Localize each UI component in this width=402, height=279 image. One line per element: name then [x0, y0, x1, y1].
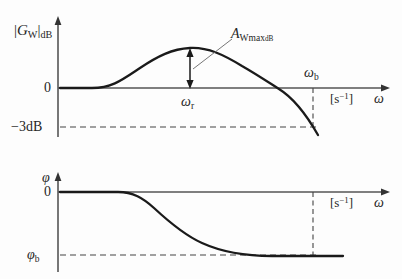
phi-b-subscript: b [35, 254, 40, 264]
omega-b-subscript: b [314, 72, 319, 82]
peak-annotation-main: A [231, 26, 240, 41]
magnitude-unit-open: [s [330, 91, 339, 106]
magnitude-y-axis-label: |GW|dB [14, 23, 52, 40]
omega-b-symbol: ω [304, 65, 314, 80]
magnitude-x-unit-label: [s−1] [330, 92, 353, 105]
phase-response-curve [60, 192, 343, 256]
plot-canvas [0, 0, 402, 279]
peak-annotation-sub-w: W [240, 33, 249, 43]
peak-annotation-sub-max: max [249, 33, 265, 43]
phase-y-axis-label: φ [42, 171, 50, 185]
peak-annotation-leader-line [193, 39, 232, 69]
peak-amplitude-annotation: AWmaxdB [231, 27, 273, 44]
omega-b-label-magnitude: ωb [304, 66, 319, 82]
peak-measure-arrowhead-up [186, 48, 193, 57]
peak-annotation-sub-db: dB [265, 35, 273, 43]
minus-3db-tick-label: −3dB [11, 120, 42, 134]
magnitude-unit-close: ] [349, 91, 353, 106]
phase-x-unit-label: [s−1] [330, 196, 353, 209]
phi-b-tick-label: φb [27, 248, 40, 264]
phase-y-axis-arrowhead [55, 172, 62, 181]
phase-zero-tick-label: 0 [44, 185, 51, 199]
magnitude-x-axis-label: ω [374, 92, 384, 106]
omega-r-subscript: r [191, 101, 194, 111]
omega-r-symbol: ω [181, 94, 191, 109]
magnitude-response-curve [60, 48, 318, 135]
magnitude-y-axis-label-unit: dB [41, 29, 53, 40]
phase-unit-close: ] [349, 195, 353, 210]
phase-x-axis-label: ω [374, 196, 384, 210]
magnitude-zero-tick-label: 0 [44, 81, 51, 95]
phi-b-symbol: φ [27, 247, 35, 262]
omega-r-label: ωr [181, 95, 194, 111]
phase-unit-exponent: −1 [339, 195, 348, 205]
magnitude-y-axis-arrowhead [55, 16, 62, 25]
magnitude-y-axis-label-main: G [17, 22, 28, 38]
magnitude-unit-exponent: −1 [339, 91, 348, 101]
bode-diagram-figure: |GW|dB 0 −3dB AWmaxdB ωr ωb [s−1] ω φ 0 … [0, 0, 402, 279]
magnitude-plot-group [55, 16, 390, 137]
phase-unit-open: [s [330, 195, 339, 210]
phase-plot-group [55, 172, 390, 272]
